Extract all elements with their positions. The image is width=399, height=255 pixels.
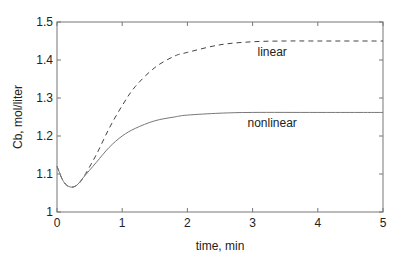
x-axis-label: time, min	[196, 239, 245, 253]
line-chart: 01234511.11.21.31.41.5time, minCb, mol/l…	[0, 0, 399, 255]
y-axis-label: Cb, mol/liter	[11, 85, 25, 149]
x-tick-label: 2	[184, 216, 191, 230]
annotation-linear: linear	[257, 45, 286, 59]
y-tick-label: 1.5	[36, 15, 53, 29]
y-tick-label: 1.1	[36, 167, 53, 181]
x-tick-label: 0	[54, 216, 61, 230]
y-tick-label: 1.3	[36, 91, 53, 105]
y-tick-label: 1	[46, 205, 53, 219]
x-tick-label: 3	[249, 216, 256, 230]
y-tick-label: 1.2	[36, 129, 53, 143]
series-line-linear	[57, 41, 383, 187]
y-tick-label: 1.4	[36, 53, 53, 67]
x-tick-label: 5	[380, 216, 387, 230]
annotation-nonlinear: nonlinear	[247, 116, 296, 130]
x-tick-label: 1	[119, 216, 126, 230]
x-tick-label: 4	[314, 216, 321, 230]
plot-frame	[57, 22, 383, 212]
series-line-nonlinear	[57, 112, 383, 187]
